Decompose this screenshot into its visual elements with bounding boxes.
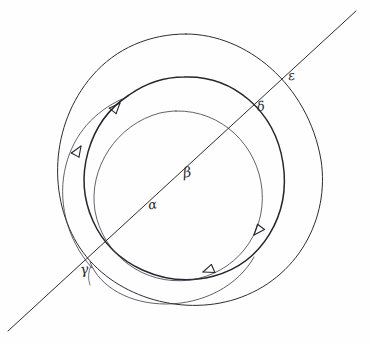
outer-spiral-curve [63, 99, 122, 268]
label-gamma: γ [79, 261, 89, 276]
figure-canvas: α β γ δ ε [0, 0, 370, 344]
label-alpha: α [147, 197, 158, 211]
arrowhead-inner-spiral-bottom [202, 264, 215, 276]
label-beta: β [182, 165, 192, 180]
